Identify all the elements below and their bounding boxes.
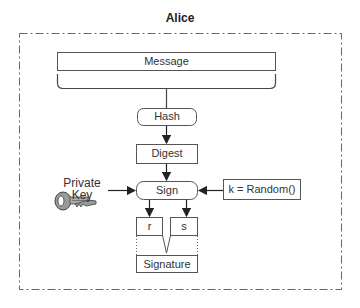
r-label: r [136,221,163,232]
digest-label: Digest [136,148,198,159]
message-bracket [58,74,276,89]
hash-label: Hash [137,111,197,122]
message-label: Message [57,56,276,67]
sign-label: Sign [136,185,198,196]
private-key-label: Private Key [52,177,112,201]
random-label: k = Random() [223,184,301,195]
s-label: s [170,221,198,232]
signature-label: Signature [136,259,198,270]
